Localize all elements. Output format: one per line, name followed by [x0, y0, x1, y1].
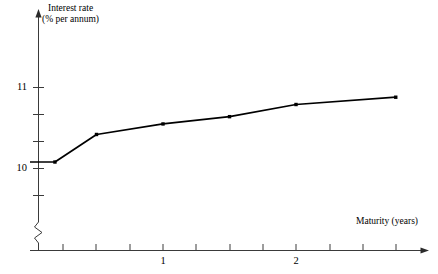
data-point-marker: [294, 103, 297, 106]
x-tick-marks: [63, 244, 396, 251]
data-point-marker: [228, 115, 231, 118]
y-tick-label-10: 10: [5, 162, 27, 174]
y-axis-break-icon: [35, 222, 43, 243]
data-point-marker: [394, 96, 397, 99]
yield-curve-markers: [53, 96, 397, 164]
x-tick-label-1: 1: [153, 255, 173, 267]
data-point-marker: [95, 133, 98, 136]
data-point-marker: [161, 122, 164, 125]
x-axis-arrow-icon: [421, 247, 430, 253]
data-point-marker: [53, 160, 56, 163]
chart-plot-area: [0, 0, 438, 274]
y-axis-arrow-icon: [35, 9, 41, 18]
y-axis-title: Interest rate (% per annum): [48, 3, 99, 25]
y-tick-label-11: 11: [5, 81, 27, 93]
yield-curve-line: [30, 97, 396, 162]
y-axis-title-line1: Interest rate: [48, 3, 93, 13]
y-axis-title-line2: (% per annum): [42, 14, 99, 25]
x-tick-label-2: 2: [286, 255, 306, 267]
x-axis-title: Maturity (years): [356, 216, 418, 227]
interest-rate-maturity-chart: Interest rate (% per annum) Maturity (ye…: [0, 0, 438, 274]
